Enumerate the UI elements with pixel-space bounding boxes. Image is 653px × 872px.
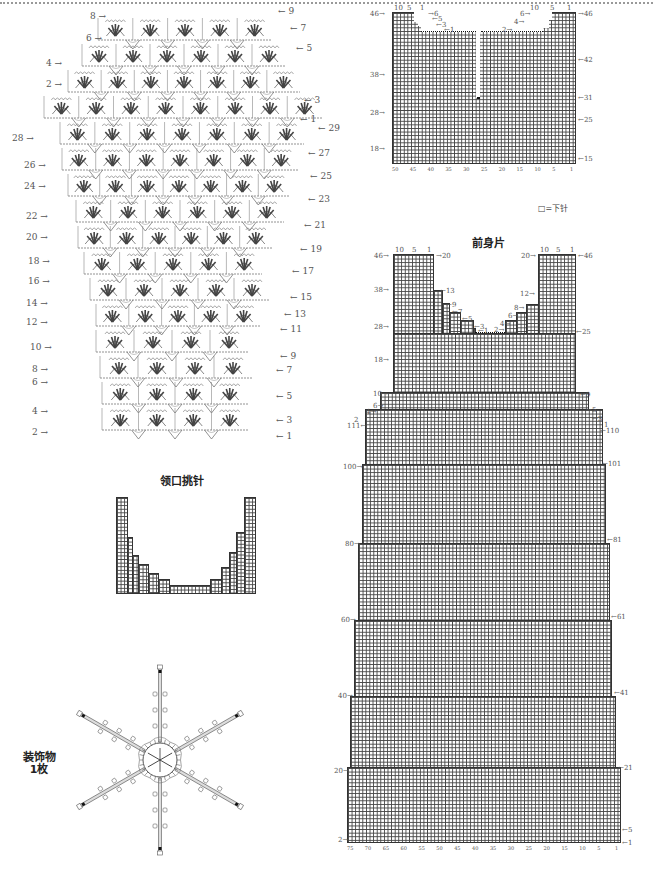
axis-tick: 40 — [428, 166, 434, 173]
ornament-label-line2: 1枚 — [14, 764, 64, 776]
top-dotted-rule — [0, 2, 653, 4]
knit-stitch-square-icon: □ — [538, 204, 546, 213]
front-strap-label: 20 — [521, 252, 530, 260]
crochet-row-label: 2 → — [32, 429, 48, 436]
front-strap-label: 20 — [442, 252, 451, 260]
axis-tick: 70 — [365, 845, 371, 852]
front-right-strap-grid — [538, 254, 576, 334]
crochet-row-label: ← 13 — [284, 311, 306, 318]
front-neck-label: 6 — [508, 312, 512, 320]
back-top-tick: 5 — [407, 5, 411, 12]
front-row-label: 25 — [582, 328, 591, 336]
crochet-row-label: ← 11 — [280, 326, 302, 333]
back-top-tick: 1 — [420, 5, 424, 12]
axis-tick: 45 — [454, 845, 460, 852]
front-row-label: 38 — [374, 286, 383, 294]
axis-tick: 15 — [517, 166, 523, 173]
back-row-label: 25 — [584, 116, 593, 124]
axis-tick: 35 — [445, 166, 451, 173]
back-row-label: 42 — [584, 56, 593, 64]
crochet-row-label: ← 3 — [276, 417, 292, 424]
crochet-row-label: ← 21 — [304, 222, 326, 229]
front-row-label: 1 — [628, 839, 632, 847]
pickup-right-column — [244, 497, 256, 594]
crochet-row-label: ← 15 — [290, 294, 312, 301]
crochet-row-label: 20 → — [26, 234, 48, 241]
crochet-row-label: 22 → — [26, 213, 48, 220]
axis-tick: 50 — [392, 166, 398, 173]
front-top-tick: 5 — [412, 247, 416, 254]
axis-tick: 30 — [508, 845, 514, 852]
front-body-grid-5 — [347, 767, 621, 843]
back-neck-label: 6 — [520, 10, 524, 18]
axis-tick: 15 — [561, 845, 567, 852]
crochet-row-label: 12 → — [26, 319, 48, 326]
front-neck-label: 1 — [484, 327, 488, 335]
front-row-label: 3 — [598, 415, 602, 423]
front-row-label: 46 — [584, 252, 593, 260]
crochet-row-label: ← 17 — [292, 268, 314, 275]
front-row-label: 40 — [338, 692, 347, 700]
axis-tick: 1 — [615, 845, 618, 852]
crochet-row-label: ← 5 — [276, 393, 292, 400]
crochet-row-label: 6 → — [32, 379, 48, 386]
front-left-strap-grid — [393, 254, 434, 334]
crochet-row-label: ← 27 — [308, 150, 330, 157]
front-row-label: 21 — [624, 764, 633, 772]
crochet-row-label: ← 1 — [300, 116, 316, 123]
neckline-pickup-chart — [116, 497, 256, 594]
crochet-row-label: ← 1 — [276, 433, 292, 440]
back-row-label: 28 — [370, 109, 379, 117]
back-row-label: 18 — [370, 145, 379, 153]
back-neck-cutout-step-left2 — [418, 12, 426, 26]
back-row-label: 46 — [584, 10, 593, 18]
front-body-grid-4 — [350, 696, 616, 768]
crochet-row-label: ← 19 — [300, 246, 322, 253]
front-bottom-axis: 757065605550454035302520151051 — [347, 845, 621, 853]
crochet-row-label: ← 9 — [280, 353, 296, 360]
front-row-label: 18 — [374, 356, 383, 364]
front-top-tick: 10 — [540, 247, 549, 254]
crochet-row-label: 14 → — [26, 300, 48, 307]
crochet-row-label: ← 9 — [278, 8, 294, 15]
axis-tick: 55 — [418, 845, 424, 852]
crochet-row-label: ← 5 — [296, 45, 312, 52]
front-top-tick: 1 — [427, 247, 431, 254]
crochet-row-label: 10 → — [30, 344, 52, 351]
axis-tick: 20 — [544, 845, 550, 852]
front-row-label: 20 — [334, 767, 343, 775]
neckline-pickup-title: 领口挑针 — [160, 472, 204, 488]
front-row-label: 41 — [620, 689, 629, 697]
crochet-row-label: ← 23 — [308, 196, 330, 203]
front-row-label: 101 — [608, 460, 621, 468]
back-top-tick: 5 — [550, 5, 554, 12]
crochet-row-label: 8 → — [32, 366, 48, 373]
axis-tick: 40 — [472, 845, 478, 852]
back-neck-label: 4 — [514, 18, 518, 26]
back-neck-slit-bottom-mark — [477, 97, 480, 99]
back-neck-label: 1 — [450, 26, 454, 34]
crochet-row-label: ← 7 — [276, 367, 292, 374]
front-top-tick: 10 — [395, 247, 404, 254]
axis-tick: 45 — [410, 166, 416, 173]
axis-tick: 30 — [463, 166, 469, 173]
legend-text: =下针 — [546, 204, 569, 213]
crochet-row-label: 28 → — [12, 135, 34, 142]
front-armhole-grid — [380, 392, 589, 410]
crochet-row-label: ← 29 — [318, 125, 340, 132]
front-row-label: 10 — [373, 390, 382, 398]
snowflake-ornament-icon — [60, 660, 260, 860]
front-row-label: 5 — [592, 406, 596, 414]
front-body-grid-3 — [354, 620, 612, 697]
back-neck-cutout-step-right2 — [548, 12, 552, 20]
crochet-row-label: ← 3 — [304, 97, 320, 104]
crochet-row-label: 2 → — [46, 81, 62, 88]
front-row-label: 100 — [343, 463, 356, 471]
front-body-grid-2 — [358, 543, 610, 621]
front-upper-grid — [393, 333, 576, 393]
front-row-label: 2 — [338, 836, 342, 844]
legend: □=下针 — [538, 202, 568, 213]
back-neck-label: 2 — [502, 26, 506, 34]
front-top-tick: 1 — [570, 247, 574, 254]
front-row-label: 80 — [345, 540, 354, 548]
